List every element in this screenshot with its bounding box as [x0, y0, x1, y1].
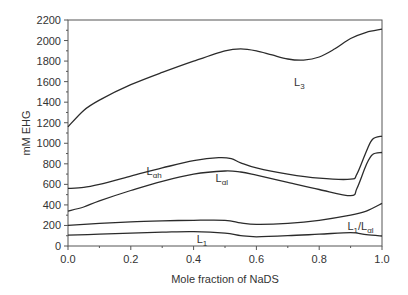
x-tick-label: 0.2 — [123, 253, 138, 265]
plot-border — [68, 20, 382, 246]
curve-label: Lαh — [147, 165, 162, 180]
x-axis-title: Mole fraction of NaDS — [171, 273, 279, 285]
y-tick-label: 1200 — [37, 117, 61, 129]
y-tick-label: 1600 — [37, 76, 61, 88]
series-line-0 — [68, 29, 382, 127]
y-tick-label: 800 — [43, 158, 61, 170]
phase-diagram-chart: 0200400600800100012001400160018002000220… — [0, 0, 408, 295]
y-axis-title: mM EHG — [20, 110, 32, 155]
series-line-3 — [68, 203, 382, 225]
y-tick-label: 200 — [43, 219, 61, 231]
y-tick-label: 600 — [43, 178, 61, 190]
x-tick-label: 1.0 — [374, 253, 389, 265]
curve-label: Lαl — [216, 172, 229, 187]
x-tick-label: 0.8 — [312, 253, 327, 265]
x-axis: 0.00.20.40.60.81.0 — [60, 246, 389, 265]
y-tick-label: 1400 — [37, 96, 61, 108]
x-tick-label: 0.0 — [60, 253, 75, 265]
y-tick-label: 2000 — [37, 35, 61, 47]
y-tick-label: 1800 — [37, 55, 61, 67]
series-line-4 — [68, 232, 382, 237]
x-tick-label: 0.4 — [186, 253, 201, 265]
data-series — [68, 29, 382, 237]
y-tick-label: 400 — [43, 199, 61, 211]
curve-labels: L3LαhLαlL1L1/Lαl — [147, 76, 374, 248]
plot-frame — [68, 20, 382, 246]
y-tick-label: 2200 — [37, 14, 61, 26]
curve-label: L3 — [294, 76, 305, 91]
y-axis: 0200400600800100012001400160018002000220… — [37, 14, 68, 252]
y-tick-label: 0 — [55, 240, 61, 252]
x-tick-label: 0.6 — [249, 253, 264, 265]
y-tick-label: 1000 — [37, 137, 61, 149]
